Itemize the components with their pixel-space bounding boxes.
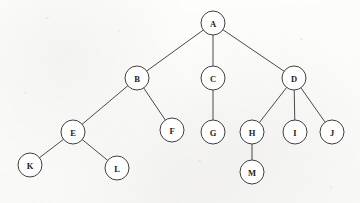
tree-node-f[interactable]: F (160, 118, 184, 142)
tree-edge-b-e (82, 86, 128, 125)
tree-node-i[interactable]: I (283, 120, 307, 144)
tree-graph: ABCDEFGHIJKLM (0, 0, 360, 203)
tree-edge-d-j (301, 88, 325, 122)
node-label-h: H (249, 128, 256, 138)
edge-layer (40, 30, 326, 161)
tree-node-e[interactable]: E (61, 120, 85, 144)
node-label-l: L (114, 164, 120, 174)
tree-node-h[interactable]: H (240, 120, 264, 144)
tree-node-k[interactable]: K (18, 153, 42, 177)
tree-edge-a-d (223, 30, 284, 72)
tree-node-c[interactable]: C (201, 66, 225, 90)
tree-node-l[interactable]: L (105, 156, 129, 180)
node-label-d: D (291, 74, 297, 84)
tree-edge-a-b (147, 30, 204, 71)
tree-node-b[interactable]: B (125, 66, 149, 90)
node-label-a: A (210, 19, 217, 29)
tree-node-d[interactable]: D (282, 66, 306, 90)
tree-node-a[interactable]: A (201, 11, 225, 35)
node-label-b: B (134, 74, 140, 84)
node-label-f: F (169, 126, 174, 136)
tree-edge-e-k (40, 139, 64, 157)
node-layer: ABCDEFGHIJKLM (18, 11, 344, 184)
tree-node-m[interactable]: M (240, 160, 264, 184)
node-label-g: G (210, 128, 217, 138)
node-label-c: C (210, 74, 216, 84)
tree-edge-d-i (294, 90, 295, 120)
node-label-e: E (70, 128, 76, 138)
tree-edge-b-f (144, 88, 166, 120)
node-label-k: K (27, 161, 34, 171)
node-label-m: M (248, 168, 256, 178)
tree-diagram-canvas: ABCDEFGHIJKLM (0, 0, 360, 203)
tree-edge-e-l (82, 140, 107, 161)
tree-node-j[interactable]: J (320, 120, 344, 144)
tree-edge-d-h (259, 87, 286, 122)
tree-node-g[interactable]: G (201, 120, 225, 144)
